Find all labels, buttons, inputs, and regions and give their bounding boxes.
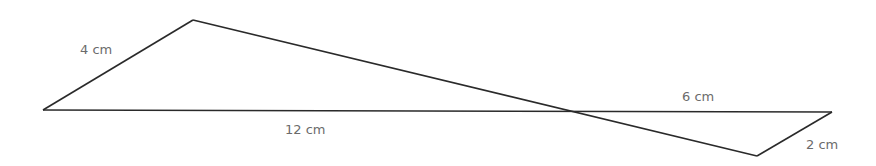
horizontal-line-left-to-right bbox=[43, 110, 832, 112]
diagonal-line-top-to-bottom bbox=[193, 20, 757, 156]
label-4cm: 4 cm bbox=[80, 42, 112, 57]
label-6cm: 6 cm bbox=[682, 89, 714, 104]
label-12cm: 12 cm bbox=[285, 122, 326, 137]
left-side-4cm bbox=[43, 20, 193, 110]
label-2cm: 2 cm bbox=[806, 137, 838, 152]
crossing-triangles-diagram: 4 cm 12 cm 6 cm 2 cm bbox=[0, 0, 876, 166]
